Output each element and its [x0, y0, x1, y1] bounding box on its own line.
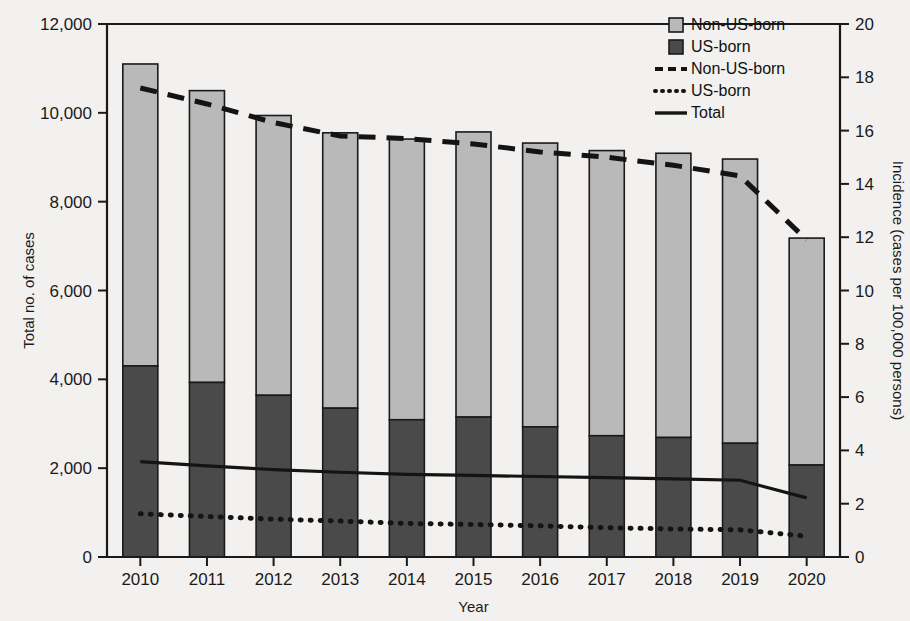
legend-swatch-swatch-dark [669, 40, 683, 54]
bar-segment-us-born-2019 [723, 443, 758, 557]
y-tick-label-right-14: 14 [855, 175, 874, 194]
y-tick-label-left-8000: 8,000 [49, 193, 92, 212]
y-tick-label-right-0: 0 [855, 548, 864, 567]
x-tick-label-2015: 2015 [455, 570, 493, 589]
y-tick-label-left-6000: 6,000 [49, 282, 92, 301]
legend-label-3-us-born: US-born [691, 82, 751, 99]
y-tick-label-left-2000: 2,000 [49, 459, 92, 478]
bar-segment-us-born-2018 [656, 438, 691, 557]
y-tick-label-right-12: 12 [855, 228, 874, 247]
x-tick-label-2011: 2011 [189, 570, 226, 589]
bar-segment-us-born-2014 [389, 420, 424, 557]
chart-figure: 02,0004,0006,0008,00010,00012,0000246810… [0, 0, 910, 621]
y-tick-label-right-16: 16 [855, 122, 874, 141]
y-axis-title-left: Total no. of cases [20, 232, 37, 349]
bar-segment-non-us-born-2020 [789, 238, 824, 465]
x-tick-label-2014: 2014 [388, 570, 426, 589]
bar-segment-us-born-2016 [523, 427, 558, 557]
bar-segment-us-born-2017 [589, 436, 624, 557]
legend-label-2-non-us-born: Non-US-born [691, 60, 785, 77]
y-tick-label-right-18: 18 [855, 68, 874, 87]
y-tick-label-left-4000: 4,000 [49, 370, 92, 389]
y-tick-label-right-6: 6 [855, 388, 864, 407]
y-axis-title-right: Incidence (cases per 100,000 persons) [890, 161, 907, 420]
bar-segment-non-us-born-2015 [456, 132, 491, 417]
bar-segment-us-born-2015 [456, 417, 491, 557]
bar-segment-non-us-born-2010 [123, 64, 158, 366]
x-tick-label-2019: 2019 [721, 570, 759, 589]
x-tick-label-2013: 2013 [321, 570, 359, 589]
bar-segment-us-born-2012 [256, 395, 291, 557]
x-tick-label-2017: 2017 [588, 570, 626, 589]
legend-label-0-non-us-born: Non-US-born [691, 16, 785, 33]
x-tick-label-2016: 2016 [521, 570, 559, 589]
bar-segment-us-born-2013 [323, 408, 358, 557]
y-tick-label-left-10000: 10,000 [40, 104, 92, 123]
bar-segment-non-us-born-2014 [389, 139, 424, 420]
legend-swatch-swatch-light [669, 18, 683, 32]
legend-label-1-us-born: US-born [691, 38, 751, 55]
bar-segment-us-born-2020 [789, 465, 824, 557]
x-tick-label-2020: 2020 [788, 570, 826, 589]
bar-segment-non-us-born-2016 [523, 143, 558, 427]
stacked-bar-and-line-chart: 02,0004,0006,0008,00010,00012,0000246810… [0, 0, 910, 621]
bar-segment-non-us-born-2019 [723, 159, 758, 443]
bar-segment-non-us-born-2011 [189, 91, 224, 383]
y-tick-label-right-10: 10 [855, 282, 874, 301]
x-tick-label-2012: 2012 [255, 570, 293, 589]
bar-segment-non-us-born-2017 [589, 151, 624, 436]
y-tick-label-right-4: 4 [855, 441, 864, 460]
bar-segment-non-us-born-2012 [256, 115, 291, 395]
x-tick-label-2018: 2018 [654, 570, 692, 589]
bar-segment-non-us-born-2013 [323, 133, 358, 408]
legend-label-4-total: Total [691, 104, 725, 121]
bar-segment-us-born-2011 [189, 382, 224, 557]
y-tick-label-left-0: 0 [83, 548, 92, 567]
x-tick-label-2010: 2010 [121, 570, 159, 589]
x-axis-title: Year [458, 598, 488, 615]
y-tick-label-left-12000: 12,000 [40, 15, 92, 34]
y-tick-label-right-8: 8 [855, 335, 864, 354]
y-tick-label-right-20: 20 [855, 15, 874, 34]
y-tick-label-right-2: 2 [855, 495, 864, 514]
bar-segment-non-us-born-2018 [656, 153, 691, 437]
